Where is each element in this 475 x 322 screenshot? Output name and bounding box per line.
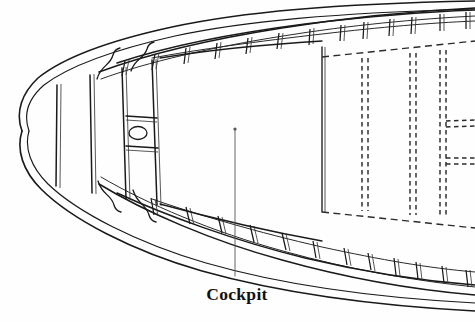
boat-plan-drawing: Cockpit: [0, 0, 475, 322]
cockpit-leader-dot: [233, 127, 236, 130]
hull-plan-svg: Cockpit: [0, 0, 475, 322]
mast-partner-hole: [129, 127, 147, 140]
cockpit-label: Cockpit: [206, 284, 267, 304]
bulkhead-frame-1: [56, 85, 57, 186]
